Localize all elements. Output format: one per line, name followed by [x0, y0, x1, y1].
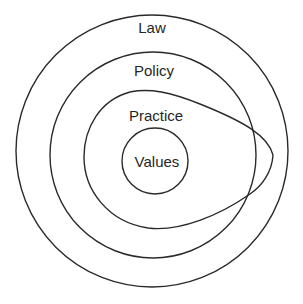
nested-layers-diagram [0, 0, 303, 304]
policy-label: Policy [134, 62, 174, 79]
values-label: Values [135, 153, 180, 170]
practice-label: Practice [129, 107, 183, 124]
law-label: Law [138, 19, 166, 36]
law-circle [16, 15, 288, 287]
